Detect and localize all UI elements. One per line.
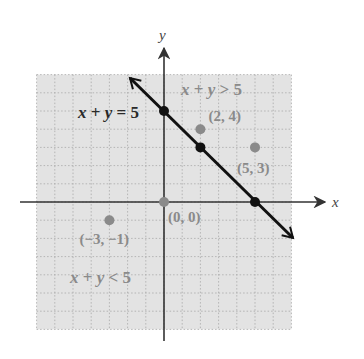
coordinate-plane: x y (2, 4)(5, 3)(0, 0)(−3, −1) x + y = 5… — [0, 0, 364, 359]
line-point-dot — [250, 197, 260, 207]
greater-region-label: x + y > 5 — [180, 80, 242, 99]
test-point-label: (−3, −1) — [79, 231, 129, 248]
equation-label: x + y = 5 — [77, 103, 139, 122]
less-region-label: x + y < 5 — [69, 268, 131, 287]
test-point-dot — [104, 215, 114, 225]
y-axis-label: y — [157, 27, 166, 43]
test-point-dot — [195, 124, 205, 134]
test-point-label: (5, 3) — [237, 160, 270, 177]
test-point-label: (2, 4) — [208, 108, 241, 125]
line-point-dot — [195, 142, 205, 152]
test-point-dot — [159, 197, 169, 207]
test-point-dot — [250, 142, 260, 152]
line-point-dot — [159, 106, 169, 116]
x-axis-label: x — [331, 194, 339, 210]
test-point-label: (0, 0) — [168, 209, 201, 226]
inequality-graph: x y (2, 4)(5, 3)(0, 0)(−3, −1) x + y = 5… — [0, 0, 364, 359]
